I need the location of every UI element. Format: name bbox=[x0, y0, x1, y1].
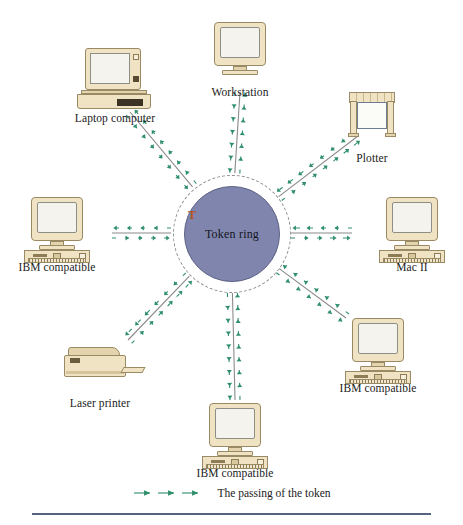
token-marker-label: T bbox=[188, 208, 196, 223]
node-mac-ii[interactable]: Mac II bbox=[352, 197, 463, 274]
token-ring-diagram: Token ring T Workstation Laptop computer… bbox=[0, 0, 463, 525]
node-label-laser-printer: Laser printer bbox=[40, 397, 160, 410]
laser-printer-icon bbox=[40, 333, 160, 395]
node-ibm-left[interactable]: IBM compatible bbox=[0, 197, 117, 274]
node-ibm-bottom[interactable]: IBM compatible bbox=[175, 403, 295, 480]
legend: The passing of the token bbox=[0, 487, 463, 499]
node-plotter[interactable]: Plotter bbox=[312, 88, 432, 165]
legend-label: The passing of the token bbox=[217, 487, 330, 499]
laptop-icon bbox=[55, 48, 175, 110]
node-laser-printer[interactable]: Laser printer bbox=[40, 333, 160, 410]
desktop-pc-icon bbox=[175, 403, 295, 465]
desktop-pc-icon bbox=[318, 318, 438, 380]
node-laptop[interactable]: Laptop computer bbox=[55, 48, 175, 125]
legend-arrow-swatch bbox=[132, 487, 210, 499]
token-ring-label: Token ring bbox=[205, 227, 259, 242]
desktop-pc-icon bbox=[352, 197, 463, 259]
node-label-laptop: Laptop computer bbox=[55, 112, 175, 125]
bottom-divider bbox=[32, 513, 431, 515]
desktop-pc-icon bbox=[0, 197, 117, 259]
monitor-icon bbox=[180, 22, 300, 84]
node-label-workstation: Workstation bbox=[180, 86, 300, 99]
node-workstation[interactable]: Workstation bbox=[180, 22, 300, 99]
node-ibm-lower-right[interactable]: IBM compatible bbox=[318, 318, 438, 395]
node-label-plotter: Plotter bbox=[312, 152, 432, 165]
plotter-icon bbox=[312, 88, 432, 150]
token-ring-core: Token ring bbox=[184, 186, 280, 282]
